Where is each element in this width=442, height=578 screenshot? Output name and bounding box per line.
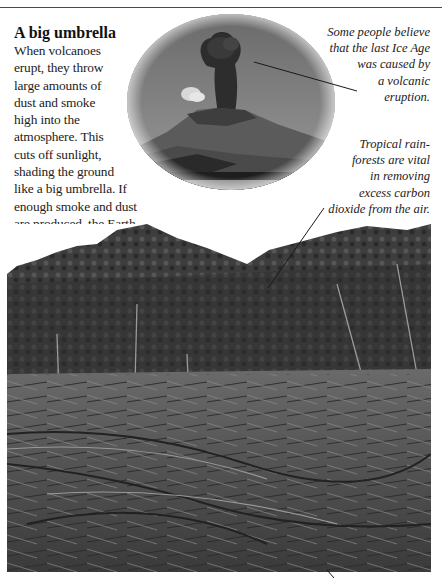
caption-line: eruption. <box>327 89 430 105</box>
caption-line: excess carbon <box>328 185 430 201</box>
caption-line: that the last Ice Age <box>327 40 430 56</box>
forest-caption: Tropical rain- forests are vital in remo… <box>328 136 430 217</box>
body-line: enough smoke and dust <box>14 198 154 215</box>
caption-line: a volcanic <box>327 73 430 89</box>
volcano-photo <box>127 14 335 190</box>
caption-line: forests are vital <box>328 152 430 168</box>
volcano-caption: Some people believe that the last Ice Ag… <box>327 24 430 105</box>
caption-line: Some people believe <box>327 24 430 40</box>
forest-photo <box>7 224 431 572</box>
volcano-illustration <box>127 14 335 190</box>
caption-line: was caused by <box>327 56 430 72</box>
caption-line: in removing <box>328 168 430 184</box>
caption-line: dioxide from the air. <box>328 201 430 217</box>
caption-line: Tropical rain- <box>328 136 430 152</box>
deforestation-illustration <box>7 224 431 572</box>
top-rule <box>0 7 442 8</box>
